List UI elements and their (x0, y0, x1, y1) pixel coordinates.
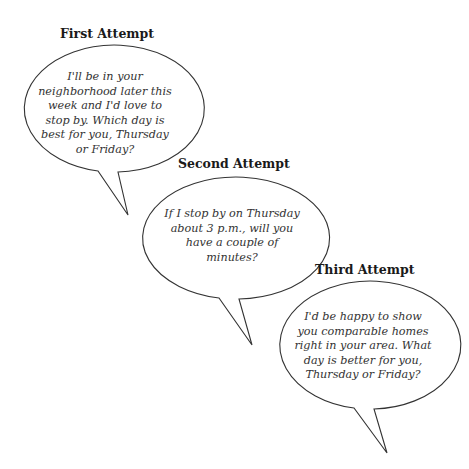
message-line: you comparable homes (281, 325, 445, 340)
speech-bubble-diagram: First Attempt Second Attempt Third Attem… (0, 0, 469, 469)
message-line: about 3 p.m., will you (150, 222, 314, 237)
message-line: best for you, Thursday (25, 128, 185, 143)
message-line: or Friday? (25, 143, 185, 158)
attempt-2-title: Second Attempt (178, 156, 290, 171)
attempt-1-message: I'll be in your neighborhood later this … (25, 70, 185, 157)
message-line: If I stop by on Thursday (150, 207, 314, 222)
attempt-3-message: I'd be happy to show you comparable home… (281, 310, 445, 383)
attempt-2-message: If I stop by on Thursday about 3 p.m., w… (150, 207, 314, 265)
message-line: neighborhood later this (25, 85, 185, 100)
message-line: I'll be in your (25, 70, 185, 85)
attempt-3-title: Third Attempt (315, 262, 415, 277)
message-line: week and I'd love to (25, 99, 185, 114)
message-line: right in your area. What (281, 339, 445, 354)
attempt-1-title: First Attempt (60, 26, 154, 41)
message-line: Thursday or Friday? (281, 368, 445, 383)
message-line: stop by. Which day is (25, 114, 185, 129)
message-line: minutes? (150, 251, 314, 266)
message-line: have a couple of (150, 236, 314, 251)
message-line: day is better for you, (281, 354, 445, 369)
message-line: I'd be happy to show (281, 310, 445, 325)
